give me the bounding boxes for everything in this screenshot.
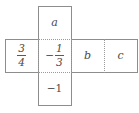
fraction-three-quarters: 3 4 <box>17 43 26 67</box>
fraction-one-third: 1 3 <box>55 43 64 67</box>
net-cell-bottom-content: −1 <box>47 83 62 94</box>
net-cell-left-content: 3 4 <box>17 43 26 67</box>
net-cell-center: − 1 3 <box>38 39 71 72</box>
label-b: b <box>84 50 91 61</box>
minus-sign-center: − <box>45 50 54 61</box>
label-c: c <box>117 50 123 61</box>
edge-c-cell-rightside <box>137 39 138 73</box>
fraction-denominator: 4 <box>17 56 26 68</box>
edge-top-cell-right <box>71 6 72 39</box>
net-cell-b-content: b <box>84 50 91 61</box>
net-cell-left: 3 4 <box>5 39 38 72</box>
signed-fraction-negative-one-third: − 1 3 <box>45 43 64 67</box>
label-a: a <box>51 17 58 28</box>
fraction-numerator: 3 <box>17 43 26 56</box>
fraction-denominator: 3 <box>55 56 64 68</box>
edge-left-cell-bottom <box>5 72 39 73</box>
net-cell-top-content: a <box>51 17 58 28</box>
net-cell-top: a <box>38 6 71 39</box>
net-cell-b: b <box>71 39 104 72</box>
net-cell-bottom: −1 <box>38 72 71 105</box>
cube-net-figure: a 3 4 − 1 3 b c <box>0 0 139 113</box>
edge-bottom-cell-bottom <box>38 105 72 106</box>
net-cell-c-content: c <box>117 50 123 61</box>
edge-bottom-cell-right <box>71 72 72 106</box>
label-negative-one: −1 <box>47 83 62 94</box>
fraction-numerator: 1 <box>55 43 64 56</box>
net-cell-c: c <box>104 39 137 72</box>
net-cell-center-content: − 1 3 <box>45 43 64 67</box>
